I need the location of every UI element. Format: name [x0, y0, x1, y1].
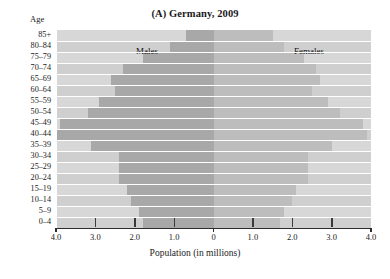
bar-female [214, 85, 312, 96]
bar-male [131, 195, 214, 206]
age-label: 45–49 [31, 119, 51, 127]
x-tick [95, 218, 97, 227]
bar-male [111, 74, 213, 85]
age-label: 55–59 [31, 97, 51, 105]
bar-female [214, 206, 285, 217]
x-tick [370, 228, 371, 232]
bar-female [214, 96, 328, 107]
pyramid-row [56, 30, 371, 41]
pyramid-row [56, 195, 371, 206]
age-label: 35–39 [31, 141, 51, 149]
age-label: 0–4 [39, 218, 51, 226]
age-label: 30–34 [31, 152, 51, 160]
bar-female [214, 52, 305, 63]
bar-male [88, 107, 214, 118]
age-label: 85+ [38, 31, 51, 39]
gridline [56, 140, 371, 141]
x-tick-label: 2.0 [287, 232, 298, 242]
x-tick-label: 3.0 [90, 232, 101, 242]
bar-male [143, 217, 214, 228]
x-tick-label: 4.0 [51, 232, 62, 242]
age-label: 70–74 [31, 64, 51, 72]
gridline [56, 129, 371, 130]
x-tick [134, 218, 136, 227]
gridline [56, 85, 371, 86]
x-tick [292, 218, 294, 227]
bar-female [214, 63, 316, 74]
bar-female [214, 140, 332, 151]
x-tick-label: 3.0 [326, 232, 337, 242]
bar-male [115, 85, 213, 96]
age-label: 65–69 [31, 75, 51, 83]
gridline [56, 96, 371, 97]
x-tick [331, 218, 333, 227]
bar-female [214, 107, 340, 118]
pyramid-row [56, 74, 371, 85]
gridline [56, 173, 371, 174]
bar-female [214, 129, 368, 140]
bar-male [99, 96, 213, 107]
gridline [56, 217, 371, 218]
pyramid-row [56, 129, 371, 140]
page-title: (A) Germany, 2009 [0, 8, 390, 19]
age-label: 60–64 [31, 86, 51, 94]
x-tick-label: 1.0 [169, 232, 180, 242]
bar-male [123, 63, 214, 74]
gridline [56, 162, 371, 163]
bar-female [214, 195, 293, 206]
bar-male [119, 151, 214, 162]
title-text: Germany, 2009 [169, 8, 239, 19]
x-tick-label: 4.0 [366, 232, 377, 242]
pyramid-row [56, 96, 371, 107]
x-axis-title: Population (in millions) [0, 248, 390, 258]
bar-male [139, 206, 214, 217]
population-pyramid-figure: (A) Germany, 2009 Age 85+80–8475–7970–74… [0, 0, 390, 279]
x-tick-label: 1.0 [248, 232, 259, 242]
age-label: 80–84 [31, 42, 51, 50]
bar-female [214, 217, 281, 228]
age-label: 75–79 [31, 53, 51, 61]
age-label: 40–44 [31, 130, 51, 138]
title-prefix: (A) [151, 8, 166, 19]
gridline [56, 107, 371, 108]
x-tick [213, 228, 214, 232]
pyramid-row [56, 85, 371, 96]
age-axis-caption: Age [30, 14, 44, 24]
pyramid-row [56, 162, 371, 173]
x-tick [55, 228, 56, 232]
bar-male [56, 129, 214, 140]
bar-male [91, 140, 213, 151]
gridline [56, 118, 371, 119]
bar-male [60, 118, 214, 129]
bar-female [214, 162, 309, 173]
age-label: 5–9 [39, 207, 51, 215]
pyramid-row [56, 173, 371, 184]
bar-male [119, 162, 214, 173]
pyramid-row [56, 206, 371, 217]
x-tick-label: 2.0 [129, 232, 140, 242]
pyramid-row [56, 118, 371, 129]
age-axis-labels: 85+80–8475–7970–7465–6960–6455–5950–5445… [0, 30, 54, 228]
bar-female [214, 184, 297, 195]
pyramid-row [56, 217, 371, 228]
x-tick [252, 218, 254, 227]
bar-female [214, 173, 309, 184]
age-label: 10–14 [31, 196, 51, 204]
pyramid-row [56, 151, 371, 162]
bar-male [127, 184, 214, 195]
gridline [56, 184, 371, 185]
pyramid-row [56, 184, 371, 195]
gridline [56, 206, 371, 207]
pyramid-row [56, 63, 371, 74]
x-axis-labels: 4.03.02.01.001.02.03.04.0 [0, 232, 390, 246]
x-tick [174, 218, 176, 227]
age-label: 20–24 [31, 174, 51, 182]
bar-male [170, 41, 213, 52]
age-label: 50–54 [31, 108, 51, 116]
x-tick-label: 0 [211, 232, 215, 242]
gridline [56, 151, 371, 152]
plot-area: Males Females [56, 30, 371, 228]
bar-female [214, 118, 364, 129]
bar-female [214, 30, 273, 41]
bar-female [214, 74, 320, 85]
